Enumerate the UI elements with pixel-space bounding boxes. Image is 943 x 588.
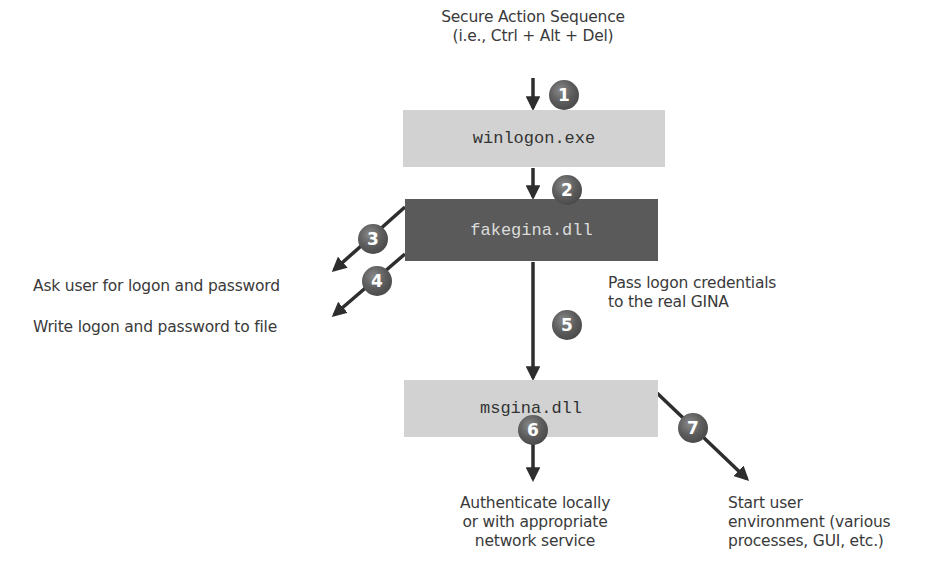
authenticate-line-3: network service: [425, 532, 645, 551]
step-3-badge: 3: [358, 224, 388, 254]
winlogon-label: winlogon.exe: [473, 129, 595, 148]
write-file-label: Write logon and password to file: [33, 318, 277, 337]
pass-credentials-label: Pass logon credentials to the real GINA: [608, 274, 776, 312]
step-2-badge: 2: [552, 175, 582, 205]
step-4-number: 4: [371, 271, 383, 291]
step-5-badge: 5: [552, 310, 582, 340]
start-environment-label: Start user environment (various processe…: [728, 494, 890, 551]
step-4-badge: 4: [362, 266, 392, 296]
trigger-line-1: Secure Action Sequence: [405, 8, 661, 27]
pass-credentials-line-2: to the real GINA: [608, 293, 776, 312]
pass-credentials-line-1: Pass logon credentials: [608, 274, 776, 293]
authenticate-line-2: or with appropriate: [425, 513, 645, 532]
step-7-badge: 7: [678, 413, 708, 443]
authenticate-label: Authenticate locally or with appropriate…: [425, 494, 645, 551]
step-6-badge: 6: [518, 415, 548, 445]
start-environment-line-1: Start user: [728, 494, 890, 513]
authenticate-line-1: Authenticate locally: [425, 494, 645, 513]
step-3-number: 3: [367, 229, 379, 249]
fakegina-box: fakegina.dll: [405, 199, 658, 261]
trigger-line-2: (i.e., Ctrl + Alt + Del): [405, 27, 661, 46]
secure-action-sequence-label: Secure Action Sequence (i.e., Ctrl + Alt…: [405, 8, 661, 46]
start-environment-line-2: environment (various: [728, 513, 890, 532]
ask-user-label: Ask user for logon and password: [33, 277, 280, 296]
fakegina-label: fakegina.dll: [470, 221, 592, 240]
step-5-number: 5: [561, 315, 573, 335]
winlogon-box: winlogon.exe: [403, 110, 665, 167]
step-6-number: 6: [527, 420, 539, 440]
start-environment-line-3: processes, GUI, etc.): [728, 532, 890, 551]
step-1-number: 1: [558, 85, 570, 105]
step-7-number: 7: [687, 418, 699, 438]
step-2-number: 2: [561, 180, 573, 200]
gina-flow-diagram: Secure Action Sequence (i.e., Ctrl + Alt…: [0, 0, 943, 588]
step-1-badge: 1: [549, 80, 579, 110]
